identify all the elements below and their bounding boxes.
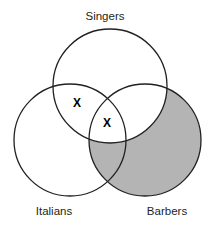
set-label-singers: Singers — [86, 10, 125, 22]
set-label-barbers: Barbers — [147, 205, 188, 217]
shade-fill — [0, 0, 211, 228]
venn-diagram-figure: Singers Italians Barbers X X — [0, 0, 211, 228]
venn-diagram-canvas: Singers Italians Barbers X X — [0, 0, 211, 228]
set-label-italians: Italians — [36, 205, 73, 217]
x-mark-singers-italians: X — [73, 96, 81, 110]
x-mark-triple-overlap: X — [103, 116, 111, 130]
shaded-region-barbers-minus-singers — [0, 0, 211, 228]
